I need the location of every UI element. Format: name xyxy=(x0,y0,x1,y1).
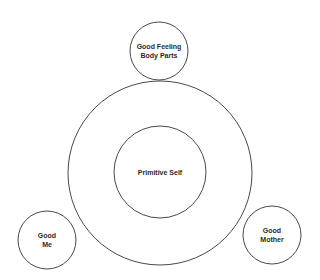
good-feeling-body-parts-label: Good Feeling Body Parts xyxy=(137,42,182,60)
good-me-line-2: Me xyxy=(38,240,56,249)
primitive-self-label: Primitive Self xyxy=(138,168,182,177)
good-feeling-line-1: Good Feeling xyxy=(137,42,182,51)
good-me-label: Good Me xyxy=(38,231,56,249)
good-mother-label: Good Mother xyxy=(260,226,283,244)
good-me-line-1: Good xyxy=(38,231,56,240)
good-mother-line-1: Good xyxy=(260,226,283,235)
good-feeling-line-2: Body Parts xyxy=(137,51,182,60)
good-mother-line-2: Mother xyxy=(260,235,283,244)
primitive-self-text: Primitive Self xyxy=(138,168,182,177)
